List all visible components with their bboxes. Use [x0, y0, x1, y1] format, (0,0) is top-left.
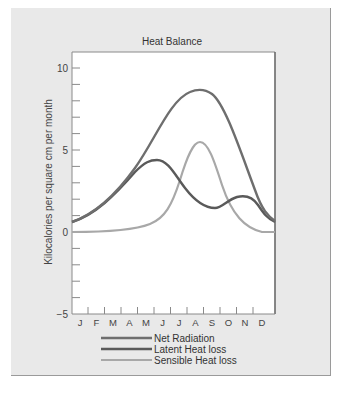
month-label: D [259, 317, 266, 328]
y-tick-10: 10 [57, 63, 69, 74]
month-label: O [225, 317, 232, 328]
month-label: F [94, 317, 100, 328]
month-label: S [209, 317, 215, 328]
month-label: J [160, 317, 165, 328]
y-axis-label: Kilocalories per square cm per month [43, 99, 54, 265]
month-label: M [142, 317, 150, 328]
month-label: N [242, 317, 249, 328]
plot-area [72, 52, 275, 314]
month-label: J [177, 317, 182, 328]
legend-label-latent-heat-loss: Latent Heat loss [154, 344, 226, 355]
legend: Net Radiation Latent Heat loss Sensible … [101, 333, 237, 366]
legend-label-sensible-heat-loss: Sensible Heat loss [154, 355, 237, 366]
y-tick-0: 0 [62, 227, 68, 238]
x-month-labels: J F M A M J J A S O N D [78, 317, 266, 328]
heat-balance-chart: Heat Balance 10 5 0 −5 Kilocalories per … [0, 0, 345, 396]
y-tick-minus-5: −5 [57, 309, 69, 320]
legend-label-net-radiation: Net Radiation [154, 333, 215, 344]
month-label: J [78, 317, 83, 328]
month-label: M [109, 317, 117, 328]
month-label: A [126, 317, 133, 328]
chart-title: Heat Balance [142, 36, 202, 47]
y-tick-5: 5 [62, 145, 68, 156]
month-label: A [192, 317, 199, 328]
